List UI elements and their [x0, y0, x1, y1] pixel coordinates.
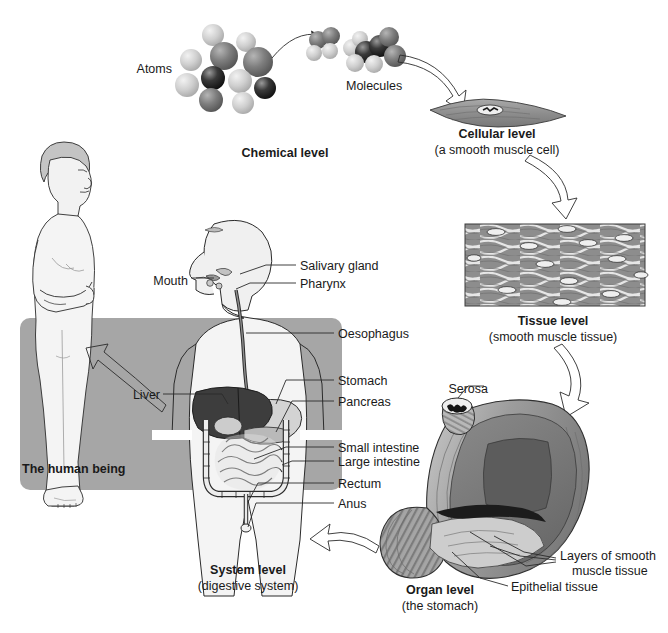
label-pancreas: Pancreas	[338, 395, 391, 411]
label-salivary-gland: Salivary gland	[300, 259, 379, 275]
caption-cellular-level: Cellular level (a smooth muscle cell)	[434, 126, 559, 159]
label-liver: Liver	[133, 388, 160, 404]
caption-organ-level-sub: (the stomach)	[402, 598, 478, 614]
label-large-intestine: Large intestine	[338, 455, 420, 471]
label-rectum: Rectum	[338, 477, 381, 493]
label-layers-smooth-muscle-line2: muscle tissue	[572, 564, 648, 580]
atoms-cluster	[175, 24, 276, 114]
arrow-cell-to-tissue	[525, 155, 577, 219]
arrow-organ-to-system	[310, 524, 379, 553]
caption-cellular-level-sub: (a smooth muscle cell)	[434, 142, 559, 158]
label-pharynx: Pharynx	[300, 277, 346, 293]
caption-chemical-level-main: Chemical level	[242, 145, 329, 161]
caption-cellular-level-main: Cellular level	[434, 126, 559, 142]
caption-organ-level-main: Organ level	[402, 582, 478, 598]
caption-chemical-level: Chemical level	[242, 145, 329, 161]
caption-tissue-level: Tissue level (smooth muscle tissue)	[489, 313, 618, 346]
label-stomach: Stomach	[338, 374, 387, 390]
smooth-muscle-cell-illustration	[430, 99, 566, 127]
molecules-cluster	[306, 27, 406, 73]
label-layers-smooth-muscle-line1: Layers of smooth	[560, 549, 656, 565]
diagram-canvas: Atoms Molecules Chemical level Cellular …	[0, 0, 668, 633]
smooth-muscle-tissue-illustration	[465, 224, 648, 306]
label-mouth: Mouth	[153, 274, 188, 290]
label-epithelial-tissue: Epithelial tissue	[511, 580, 598, 596]
caption-tissue-level-sub: (smooth muscle tissue)	[489, 329, 618, 345]
label-serosa: Serosa	[448, 382, 488, 398]
stomach-illustration	[380, 398, 589, 578]
label-molecules: Molecules	[346, 79, 402, 95]
label-oesophagus: Oesophagus	[338, 327, 409, 343]
caption-system-level-main: System level	[198, 562, 299, 578]
caption-system-level-sub: (digestive system)	[198, 578, 299, 594]
caption-tissue-level-main: Tissue level	[489, 313, 618, 329]
caption-human-being: The human being	[22, 462, 125, 478]
caption-organ-level: Organ level (the stomach)	[402, 582, 478, 615]
caption-system-level: System level (digestive system)	[198, 562, 299, 595]
arrow-tissue-to-organ	[554, 344, 589, 417]
label-anus: Anus	[338, 497, 367, 513]
label-atoms: Atoms	[137, 62, 172, 78]
